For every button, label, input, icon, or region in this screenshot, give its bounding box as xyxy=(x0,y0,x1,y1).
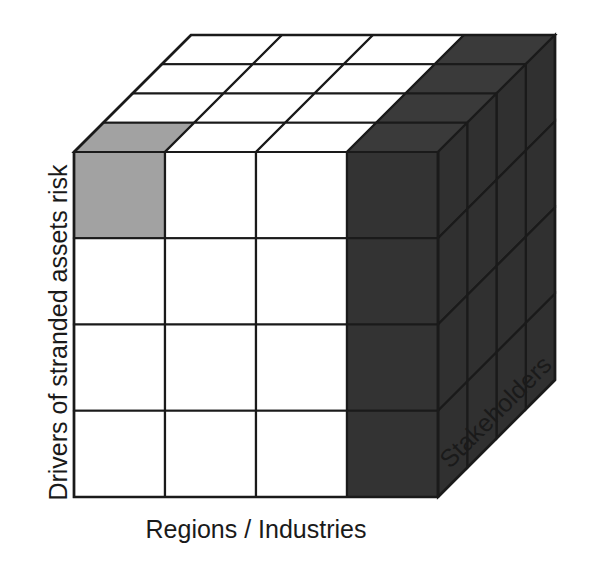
y-axis-label: Drivers of stranded assets risk xyxy=(44,143,73,523)
front-face-cell-3-3 xyxy=(347,411,438,497)
front-face-cell-0-0 xyxy=(74,152,165,238)
front-face-cell-2-2 xyxy=(256,325,347,411)
cube-diagram xyxy=(0,0,604,569)
front-face-cell-0-3 xyxy=(347,152,438,238)
front-face-cell-3-0 xyxy=(74,411,165,497)
front-face-cell-2-1 xyxy=(165,325,256,411)
front-face-cell-0-1 xyxy=(165,152,256,238)
front-face-cell-2-3 xyxy=(347,325,438,411)
front-face-cell-3-2 xyxy=(256,411,347,497)
front-face-cell-2-0 xyxy=(74,325,165,411)
front-face-cell-0-2 xyxy=(256,152,347,238)
front-face-cell-1-0 xyxy=(74,238,165,324)
front-face-cell-1-3 xyxy=(347,238,438,324)
x-axis-label: Regions / Industries xyxy=(74,515,438,544)
front-face-cell-1-2 xyxy=(256,238,347,324)
front-face-cell-1-1 xyxy=(165,238,256,324)
front-face-cell-3-1 xyxy=(165,411,256,497)
figure-canvas: Drivers of stranded assets risk Regions … xyxy=(0,0,604,569)
